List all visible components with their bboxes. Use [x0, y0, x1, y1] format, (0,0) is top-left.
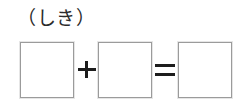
plus-icon-vertical-bar [85, 61, 88, 78]
equals-icon-top-bar [155, 64, 175, 67]
equation-row [0, 42, 242, 100]
shiki-label: （しき） [17, 5, 137, 31]
answer-box-second-addend[interactable] [98, 42, 152, 98]
equals-icon [152, 42, 176, 98]
answer-box-sum[interactable] [178, 42, 232, 98]
answer-box-first-addend[interactable] [20, 42, 74, 98]
worksheet-canvas: （しき） [0, 0, 242, 107]
plus-icon [74, 42, 98, 98]
equals-icon-bottom-bar [155, 73, 175, 76]
